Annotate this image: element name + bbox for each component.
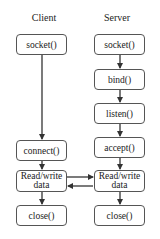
arrows-layer xyxy=(0,0,160,239)
